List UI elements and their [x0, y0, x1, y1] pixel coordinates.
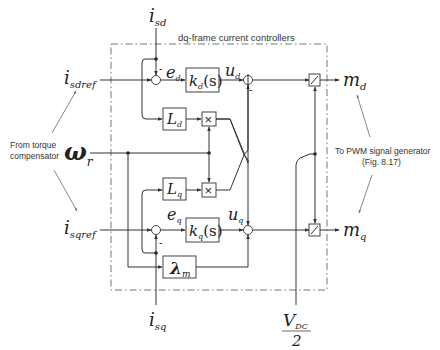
- d-sum-junction: [152, 76, 161, 85]
- d-multiplier-icon: ×: [205, 112, 213, 127]
- dq-current-controller-diagram: dq-frame current controllers isd isdref …: [0, 0, 440, 350]
- right-arrow-up: [357, 95, 370, 137]
- eq-label: eq: [167, 205, 182, 225]
- uq-sum-junction: [244, 226, 253, 235]
- right-annotation-line2: (Fig. 8.17): [362, 157, 401, 167]
- isdref-label: isdref: [64, 67, 98, 90]
- isqref-label: isqref: [64, 217, 98, 240]
- left-annotation-line1: From torque: [10, 140, 57, 150]
- vdc-denominator: 2: [291, 332, 302, 350]
- omega-to-lambda-line: [128, 153, 162, 267]
- kd-label: kd(s): [189, 72, 223, 91]
- controller-title: dq-frame current controllers: [178, 32, 295, 43]
- omega-label: ωr: [64, 137, 94, 169]
- md-label: md: [343, 69, 366, 92]
- ud-label: ud: [225, 61, 240, 81]
- isd-label: isd: [149, 5, 166, 28]
- left-arrow-down: [54, 170, 77, 211]
- mq-label: mq: [343, 219, 366, 242]
- left-annotation-line2: compensator: [10, 151, 59, 161]
- isq-label: isq: [149, 309, 166, 332]
- vdc-numerator: VDC: [283, 310, 308, 331]
- q-cross-to-ud-sum: [216, 85, 248, 190]
- q-sum-junction: [152, 226, 161, 235]
- uq-label: uq: [228, 205, 243, 225]
- q-sum-minus: -: [159, 237, 162, 248]
- d-sum-minus: -: [159, 63, 162, 74]
- ud-sum-minus: -: [249, 84, 252, 95]
- q-multiplier-icon: ×: [205, 183, 213, 198]
- right-annotation-line1: To PWM signal generator: [335, 146, 431, 156]
- kq-label: kq(s): [189, 222, 223, 241]
- left-arrow-up: [52, 91, 76, 133]
- right-arrow-down: [359, 175, 372, 213]
